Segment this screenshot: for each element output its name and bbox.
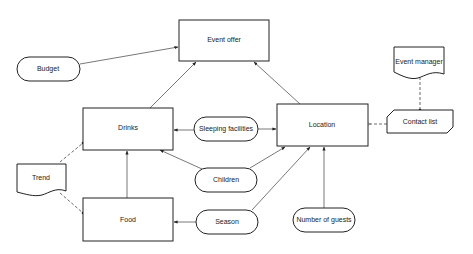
node-label: Event manager: [395, 58, 443, 66]
edge-season-location: [252, 147, 310, 210]
node-event-manager[interactable]: Event manager: [394, 47, 444, 79]
node-label: Budget: [37, 65, 59, 73]
node-label: Children: [213, 176, 239, 183]
node-drinks[interactable]: Drinks: [83, 108, 173, 150]
edge-trend-food: [60, 193, 83, 213]
node-food[interactable]: Food: [83, 198, 173, 241]
node-label: Contact list: [403, 118, 438, 125]
node-event-offer[interactable]: Event offer: [179, 20, 269, 61]
node-label: Number of guests: [296, 216, 352, 224]
node-label: Trend: [32, 174, 50, 181]
node-label: Food: [120, 216, 136, 223]
edge-children-drinks: [160, 150, 202, 169]
node-contact-list[interactable]: Contact list: [387, 110, 453, 133]
edge-drinks-event-offer: [150, 62, 196, 108]
edge-location-event-offer: [254, 62, 300, 104]
event-planning-diagram: Event offer Budget Drinks Sleeping facil…: [0, 0, 473, 254]
edge-budget-event-offer: [80, 47, 178, 64]
node-label: Sleeping facilities: [199, 125, 254, 133]
node-season[interactable]: Season: [196, 210, 258, 234]
node-label: Season: [215, 218, 239, 225]
node-label: Drinks: [118, 124, 138, 131]
edge-trend-drinks: [60, 143, 83, 162]
node-budget[interactable]: Budget: [17, 57, 80, 81]
edge-children-location: [250, 147, 285, 168]
node-location[interactable]: Location: [277, 104, 368, 146]
node-number-of-guests[interactable]: Number of guests: [293, 208, 355, 232]
node-label: Event offer: [207, 36, 241, 43]
node-trend[interactable]: Trend: [17, 164, 66, 196]
node-sleeping-facilities[interactable]: Sleeping facilities: [194, 117, 258, 141]
node-label: Location: [309, 121, 336, 128]
node-children[interactable]: Children: [195, 168, 257, 192]
